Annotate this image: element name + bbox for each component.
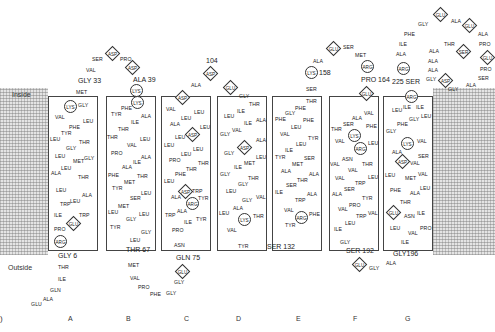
residue: VAL [127,142,137,148]
residue: VAL [364,110,374,116]
residue: TYR [308,135,319,141]
residue: MET [128,262,139,268]
residue: LEU [55,153,65,159]
residue: PHE [295,105,306,111]
residue: TYR [111,111,122,117]
residue: MET [124,179,135,185]
residue: PHE [366,123,377,129]
residue: VAL [335,175,345,181]
residue-number-39: ALA 39 [133,76,156,84]
residue: MET [355,52,366,58]
residue: TYR [285,222,296,228]
residue: ILE [403,104,411,110]
residue: TYR [61,130,72,136]
residue: LEU [421,113,431,119]
residue: PHE [121,105,132,111]
residue: ALA [141,154,151,160]
residue-lys-circle: LYS [238,213,251,226]
residue: PRO [54,226,66,232]
residue: LEU [193,146,203,152]
residue: LEU [224,113,234,119]
residue: MET [73,158,84,164]
residue: VAL [348,167,358,173]
residue: PHE [108,172,119,178]
membrane-left [0,88,48,255]
residue: VAL [417,138,427,144]
residue: GLY [369,265,379,271]
residue: TYR [112,185,123,191]
residue: ALA [233,205,243,211]
residue: ASN [342,156,353,162]
residue: LEU [181,151,191,157]
helix-label-b: B [126,315,131,322]
residue: MET [405,175,416,181]
residue: GLY [220,131,230,137]
residue: ILE [131,119,139,125]
residue: GLY [238,181,248,187]
residue: MET [292,161,303,167]
residue: VAL [408,230,418,236]
inside-label: Inside [12,91,31,98]
residue-glu-diamond: GLU [352,257,368,273]
residue: SER [418,153,429,159]
residue: LEU [226,188,236,194]
residue: PRO [349,202,361,208]
residue: VAL [410,160,420,166]
residue: VAL [55,114,65,120]
residue-arg-circle: ARG [405,90,418,103]
residue: GLY [418,21,428,27]
residue: SER [130,195,141,201]
residue: THR [444,41,455,47]
residue: ILE [234,164,242,170]
residue: LEU [194,109,204,115]
residue: LEU [219,210,229,216]
helix-label-f: F [353,315,357,322]
residue-arg-circle: ARG [54,235,67,248]
residue: ILE [237,108,245,114]
residue-number-6: GLY 6 [58,252,77,260]
residue: TYR [198,195,209,201]
residue: ALA [386,260,396,266]
residue: VAL [335,138,345,144]
residue: ASN [174,242,185,248]
residue: GLY [166,290,176,296]
residue-arg-circle: ARG [361,60,374,73]
residue-ser-diamond: SER [456,44,472,60]
residue: LEU [139,211,149,217]
residue-asp-diamond: ASP [203,66,219,82]
helix-label-c: C [184,315,189,322]
residue: THR [118,126,129,132]
residue: LEU [61,165,71,171]
residue-glu-diamond: GLU [175,264,191,280]
helix-label-g: G [405,315,410,322]
residue: LEU [368,140,378,146]
residue: LEU [385,172,395,178]
residue: TYR [362,195,373,201]
residue: GLY [224,150,234,156]
residue: GLY [386,128,396,134]
residue: TRP [356,213,367,219]
residue: GLY [340,239,350,245]
residue: ILE [184,219,192,225]
residue-number-158: 158 [319,69,331,77]
residue: VAL [418,171,428,177]
residue: TYR [110,224,121,230]
residue: ALA [313,58,323,64]
panel-label: ) [0,314,3,323]
residue: LEU [140,136,150,142]
residue: ALA [478,31,488,37]
residue: TRP [165,212,176,218]
residue-number-164: PRO 164 [361,76,390,84]
residue: ALA [428,58,438,64]
residue-number-196: GLY196 [393,250,418,258]
residue: ALA [256,137,266,143]
residue-number-104: 104 [206,57,218,65]
residue: ILE [285,147,293,153]
residue: ALA [466,82,476,88]
residue: GLY [285,110,295,116]
residue: THR [186,166,197,172]
residue: PHE [275,116,286,122]
residue: ALA [309,171,319,177]
outside-label: Outside [8,264,32,271]
residue: SER [92,56,103,62]
